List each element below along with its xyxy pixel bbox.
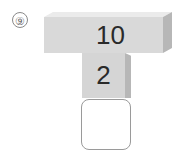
middle-block-front: 2 bbox=[82, 53, 125, 98]
middle-block-value: 2 bbox=[96, 60, 110, 91]
middle-block-side-face bbox=[125, 53, 131, 98]
top-block-side-face bbox=[163, 12, 172, 53]
problem-number-label: ⑨ bbox=[12, 12, 28, 28]
top-block-value: 10 bbox=[96, 20, 125, 51]
top-block-front: 10 bbox=[44, 17, 163, 53]
answer-input-box[interactable] bbox=[81, 99, 131, 150]
